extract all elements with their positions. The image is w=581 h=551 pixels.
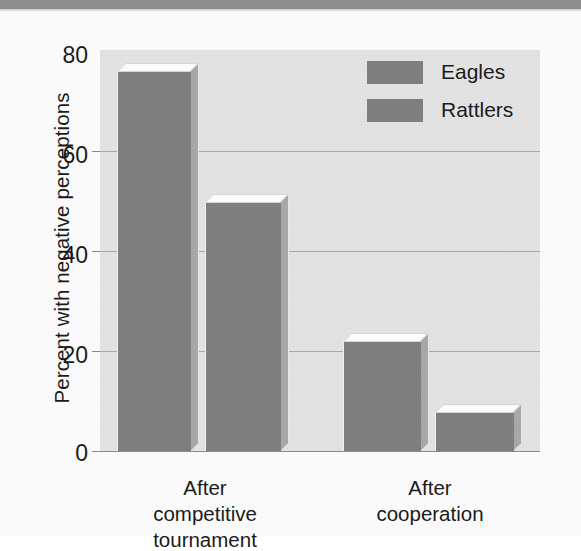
- legend-item-eagles: Eagles: [367, 60, 513, 84]
- legend-swatch-eagles: [367, 61, 423, 84]
- x-category-label-after-cooperation: After cooperation: [350, 475, 510, 527]
- bar-rattlers-after-cooperation: [435, 404, 513, 451]
- bar-side-face: [420, 333, 429, 451]
- legend-item-rattlers: Rattlers: [367, 98, 513, 122]
- legend-swatch-rattlers: [367, 99, 423, 122]
- bar-eagles-after-competitive-tournament: [117, 63, 190, 451]
- x-label-line-2: competitive tournament: [110, 501, 300, 551]
- x-label-line-1: After: [350, 475, 510, 501]
- bar-top-face: [205, 194, 289, 203]
- y-axis-title: Percent with negative perceptions: [50, 63, 74, 433]
- bar-front-face: [343, 342, 421, 451]
- bar-side-face: [280, 194, 289, 451]
- x-label-line-1: After: [110, 475, 300, 501]
- page-top-band-shadow: [0, 9, 581, 12]
- legend: Eagles Rattlers: [367, 60, 513, 136]
- bar-front-face: [205, 203, 281, 451]
- legend-label-eagles: Eagles: [441, 60, 505, 84]
- x-axis-baseline: [100, 451, 540, 452]
- legend-label-rattlers: Rattlers: [441, 98, 513, 122]
- bar-top-face: [117, 63, 199, 72]
- bar-eagles-after-cooperation: [343, 333, 420, 451]
- bar-top-face: [435, 404, 522, 413]
- x-category-label-after-competitive-tournament: After competitive tournament: [110, 475, 300, 551]
- page-top-band: [0, 0, 581, 9]
- bar-side-face: [513, 404, 522, 451]
- bar-rattlers-after-competitive-tournament: [205, 194, 280, 451]
- bar-side-face: [190, 63, 199, 451]
- plot-area: Eagles Rattlers: [100, 50, 540, 451]
- bar-front-face: [435, 413, 514, 451]
- x-label-line-2: cooperation: [350, 501, 510, 527]
- y-tick-label-0: 0: [28, 440, 88, 467]
- bar-top-face: [343, 333, 429, 342]
- bar-front-face: [117, 72, 191, 451]
